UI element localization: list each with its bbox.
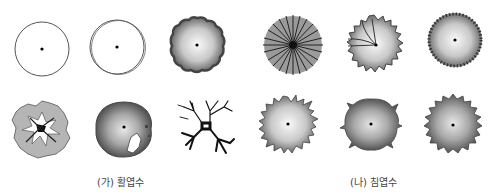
radial-lines-circle-icon	[262, 14, 324, 76]
conifer-caption: (나) 침엽수	[350, 174, 397, 189]
shaded-circle-with-trunk-icon	[93, 99, 155, 161]
star-edge-shaded-circle-icon	[422, 94, 484, 156]
double-circle-icon	[87, 17, 147, 77]
shaded-circle-with-tick-edge-icon	[425, 10, 485, 70]
branch-silhouette-icon	[176, 97, 238, 159]
shaded-scalloped-circle-icon	[167, 15, 227, 75]
broadleaf-caption: (가) 활엽수	[97, 174, 144, 189]
simple-circle-icon	[12, 19, 72, 79]
irregular-foliage-icon	[10, 98, 72, 160]
spiky-circle-with-branch-lines-icon	[342, 13, 406, 77]
spiky-shaded-circle-icon	[256, 93, 320, 157]
sparse-spiky-shaded-circle-icon	[340, 93, 402, 155]
